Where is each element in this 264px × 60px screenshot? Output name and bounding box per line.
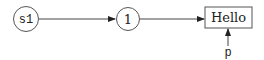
pointer-diagram: s1 1 Hello p [0, 0, 264, 60]
node-s1: s1 [14, 7, 39, 32]
node-hello: Hello [205, 7, 252, 28]
node-s1-label: s1 [19, 13, 33, 27]
diagram-svg: s1 1 Hello p [0, 0, 264, 60]
node-1: 1 [117, 8, 140, 31]
node-hello-label: Hello [211, 10, 246, 25]
pointer-p-label: p [224, 46, 231, 60]
node-1-label: 1 [124, 12, 132, 27]
